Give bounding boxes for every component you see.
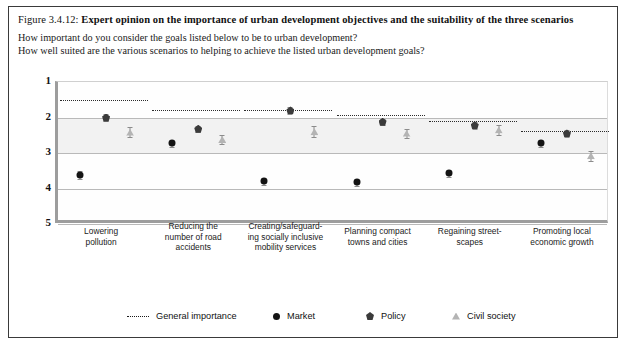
error-bar-cap xyxy=(354,186,359,187)
data-point-market xyxy=(77,172,84,179)
legend-item-importance: General importance xyxy=(127,311,237,321)
error-bar-cap xyxy=(262,185,267,186)
figure-caption: Figure 3.4.12: Expert opinion on the imp… xyxy=(18,14,610,25)
error-bar-cap xyxy=(588,161,593,162)
y-axis-tick-label: 3 xyxy=(33,145,51,157)
error-bar-cap xyxy=(496,135,501,136)
y-axis-tick-label: 4 xyxy=(33,181,51,193)
error-bar-cap xyxy=(128,137,133,138)
error-bar-cap xyxy=(404,138,409,139)
gridline xyxy=(58,118,607,119)
error-bar-cap xyxy=(220,144,225,145)
error-bar-cap xyxy=(404,129,409,130)
data-point-market xyxy=(353,179,360,186)
data-point-market xyxy=(261,178,268,185)
error-bar-cap xyxy=(312,137,317,138)
figure-title: Expert opinion on the importance of urba… xyxy=(81,14,573,25)
pentagon-marker-icon xyxy=(366,312,374,320)
error-bar-cap xyxy=(588,151,593,152)
y-axis-labels: 12345 xyxy=(29,81,51,223)
figure-number: Figure 3.4.12: xyxy=(18,14,81,25)
legend-label-market: Market xyxy=(287,311,315,321)
general-importance-segment xyxy=(60,100,148,101)
dotted-line-icon xyxy=(127,316,149,317)
error-bar-cap xyxy=(170,147,175,148)
error-bar-cap xyxy=(78,179,83,180)
general-importance-segment xyxy=(152,110,240,111)
x-axis-label: Promoting localeconomic growth xyxy=(504,226,620,247)
circle-marker-icon xyxy=(273,313,280,320)
error-bar-cap xyxy=(446,177,451,178)
general-importance-segment xyxy=(337,115,425,116)
legend-label-policy: Policy xyxy=(381,311,406,321)
gridline xyxy=(58,153,607,154)
data-point-market xyxy=(169,140,176,147)
chart-legend: General importance Market Policy Civil s… xyxy=(9,307,619,331)
error-bar-cap xyxy=(312,126,317,127)
question-line-2: How well suited are the various scenario… xyxy=(18,45,425,56)
triangle-marker-icon xyxy=(452,313,460,320)
data-point-market xyxy=(445,170,452,177)
y-axis-tick-label: 2 xyxy=(33,110,51,122)
plot-area xyxy=(55,81,608,223)
legend-item-market: Market xyxy=(273,311,315,321)
shaded-band xyxy=(58,118,607,154)
y-axis-tick-label: 1 xyxy=(33,74,51,86)
legend-item-civil: Civil society xyxy=(452,311,516,321)
figure-panel: Figure 3.4.12: Expert opinion on the imp… xyxy=(8,6,618,338)
question-line-1: How important do you consider the goals … xyxy=(18,32,357,43)
gridline xyxy=(58,189,607,190)
error-bar-cap xyxy=(128,127,133,128)
error-bar-cap xyxy=(496,125,501,126)
legend-label-civil: Civil society xyxy=(467,311,516,321)
error-bar-cap xyxy=(220,135,225,136)
error-bar-cap xyxy=(538,147,543,148)
legend-label-importance: General importance xyxy=(156,311,237,321)
data-point-market xyxy=(537,140,544,147)
legend-item-policy: Policy xyxy=(366,311,406,321)
